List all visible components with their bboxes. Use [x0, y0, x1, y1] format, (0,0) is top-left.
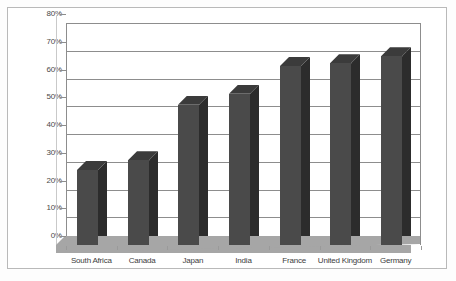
- bar-canada: [128, 160, 149, 245]
- bar-side-face: [250, 85, 259, 236]
- y-axis-tick: [60, 14, 66, 15]
- bar-chart: 80%70%60%50%40%30%20%10%0% South AfricaC…: [0, 0, 456, 281]
- y-axis-tick: [60, 42, 66, 43]
- x-axis-tick: [117, 246, 118, 250]
- bar-south-africa: [77, 170, 98, 245]
- x-axis-tick: [167, 246, 168, 250]
- bar-side-face: [199, 96, 208, 236]
- bar-front-face: [128, 160, 149, 245]
- y-axis-tick: [60, 125, 66, 126]
- bar-united-kingdom: [330, 63, 351, 245]
- axis-depth-edge: [56, 16, 57, 246]
- x-axis-tick: [421, 246, 422, 250]
- gridline: [66, 51, 421, 52]
- x-axis-tick: [320, 246, 321, 250]
- bar-side-face: [149, 151, 158, 236]
- x-axis-tick: [66, 246, 67, 250]
- x-axis-tick: [218, 246, 219, 250]
- y-axis-tick: [60, 70, 66, 71]
- bar-front-face: [77, 170, 98, 245]
- y-axis-tick: [60, 236, 66, 237]
- x-axis-tick: [269, 246, 270, 250]
- gridline: [66, 23, 421, 24]
- y-axis: 80%70%60%50%40%30%20%10%0%: [14, 0, 62, 281]
- x-axis-label-germany: Germany: [356, 256, 436, 265]
- x-axis-tick: [370, 246, 371, 250]
- gridline: [66, 79, 421, 80]
- y-axis-tick: [60, 208, 66, 209]
- y-axis-tick: [60, 153, 66, 154]
- bar-side-face: [98, 161, 107, 236]
- bar-side-face: [402, 47, 411, 236]
- bar-germany: [381, 56, 402, 245]
- y-axis-tick: [60, 97, 66, 98]
- bar-japan: [178, 105, 199, 245]
- bar-france: [280, 66, 301, 245]
- bar-side-face: [301, 57, 310, 236]
- bar-front-face: [280, 66, 301, 245]
- bar-front-face: [330, 63, 351, 245]
- bar-front-face: [178, 105, 199, 245]
- bar-front-face: [229, 94, 250, 245]
- bar-front-face: [381, 56, 402, 245]
- y-axis-tick: [60, 181, 66, 182]
- bar-india: [229, 94, 250, 245]
- bar-side-face: [351, 54, 360, 236]
- x-axis-labels: South AfricaCanadaJapanIndiaFranceUnited…: [0, 250, 456, 272]
